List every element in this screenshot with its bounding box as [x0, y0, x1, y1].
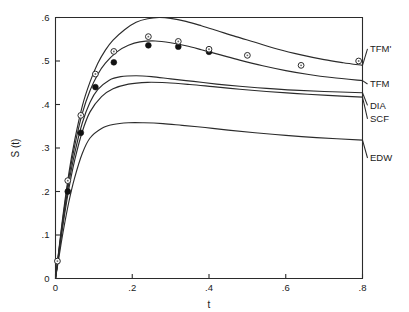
filled-data-point: [145, 42, 151, 48]
curve-label-scf: SCF: [370, 113, 389, 124]
open-data-point-center: [300, 64, 302, 66]
curve-scf: [56, 82, 363, 278]
filled-data-point: [93, 84, 99, 90]
open-data-point-center: [246, 54, 248, 56]
leader-line-4: [363, 140, 368, 158]
curve-label-tfm: TFM: [370, 78, 390, 89]
axis-titles: tS (t): [10, 139, 211, 310]
leader-line-0: [363, 49, 368, 66]
leader-line-1: [363, 81, 368, 84]
curve-tfm: [56, 41, 363, 279]
open-data-point-center: [67, 180, 69, 182]
x-tick-label-0: 0: [53, 282, 58, 293]
x-tick-label-1: .2: [128, 282, 136, 293]
y-tick-label-0: 0: [44, 273, 49, 284]
curves: [56, 17, 363, 278]
curve-label-tfm: TFM': [370, 43, 392, 54]
y-tick-label-6: .6: [42, 12, 50, 23]
tick-labels: 0.1.2.3.4.5.60.2.4.6.8: [42, 12, 367, 293]
open-data-point-center: [113, 50, 115, 52]
filled-data-point: [111, 59, 117, 65]
y-tick-label-4: .4: [42, 99, 50, 110]
open-data-point-center: [177, 40, 179, 42]
y-axis-title: S (t): [10, 139, 21, 158]
curve-dia: [56, 76, 363, 279]
filled-data-point: [65, 189, 71, 195]
curve-tfm-prime: [56, 17, 363, 278]
line-chart: TFM'TFMDIASCFEDW 0.1.2.3.4.5.60.2.4.6.8 …: [0, 0, 409, 312]
filled-data-point: [78, 130, 84, 136]
x-tick-label-2: .4: [205, 282, 213, 293]
open-data-point-center: [80, 114, 82, 116]
open-data-point-center: [358, 60, 360, 62]
y-tick-label-5: .5: [42, 55, 50, 66]
curve-label-edw: EDW: [370, 152, 392, 163]
x-axis-title: t: [208, 299, 211, 310]
y-tick-label-3: .3: [42, 142, 50, 153]
x-tick-label-3: .6: [282, 282, 290, 293]
open-data-point-center: [208, 48, 210, 50]
open-data-point-center: [94, 73, 96, 75]
open-data-point-center: [147, 36, 149, 38]
y-tick-label-1: .1: [42, 229, 50, 240]
curve-labels: TFM'TFMDIASCFEDW: [363, 43, 393, 163]
x-tick-label-4: .8: [359, 282, 367, 293]
open-data-point-center: [56, 260, 58, 262]
curve-edw: [56, 123, 363, 279]
curve-label-dia: DIA: [370, 100, 387, 111]
y-tick-label-2: .2: [42, 186, 50, 197]
data-markers: [55, 34, 362, 264]
figure-container: TFM'TFMDIASCFEDW 0.1.2.3.4.5.60.2.4.6.8 …: [0, 0, 409, 312]
